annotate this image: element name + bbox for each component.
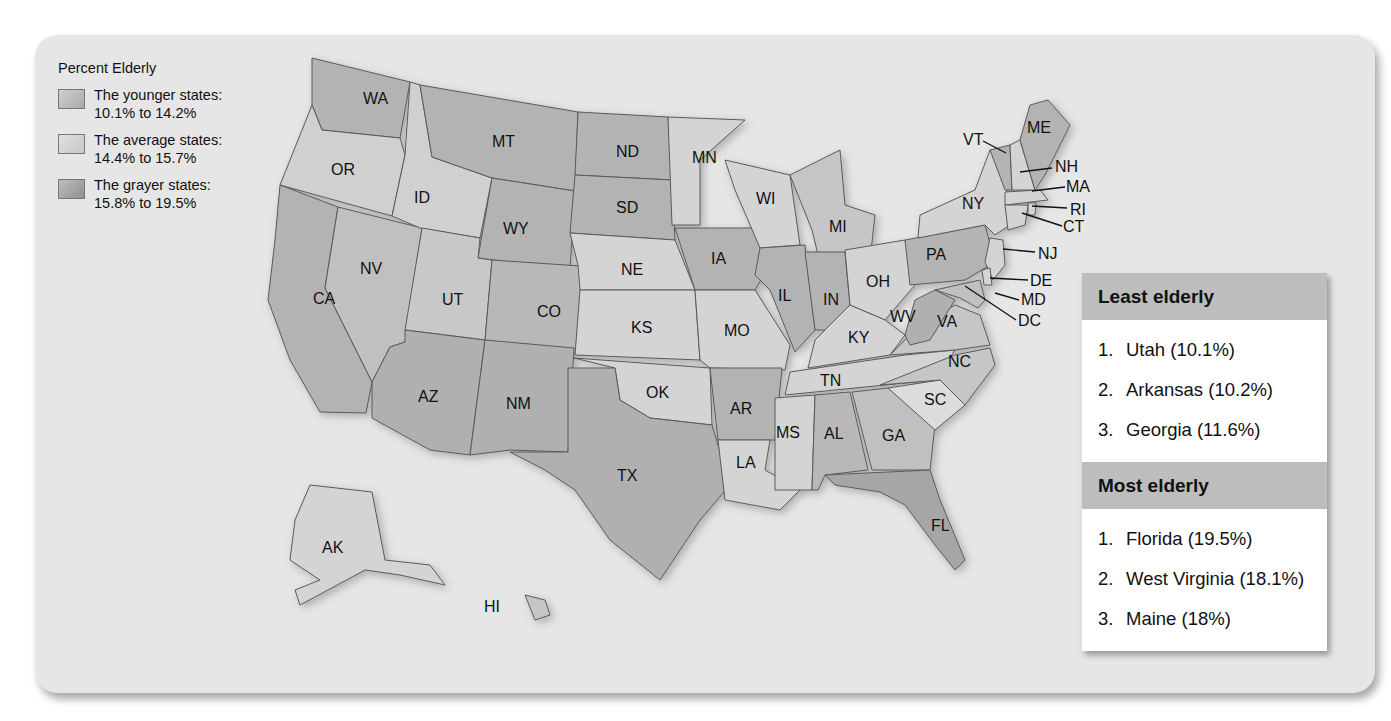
svg-text:WA: WA <box>363 90 389 107</box>
svg-text:CT: CT <box>1063 218 1085 235</box>
svg-text:NJ: NJ <box>1038 245 1058 262</box>
svg-text:ID: ID <box>414 189 430 206</box>
svg-text:KS: KS <box>631 319 652 336</box>
svg-text:OR: OR <box>331 161 355 178</box>
svg-text:FL: FL <box>931 517 950 534</box>
svg-text:ME: ME <box>1027 119 1051 136</box>
svg-text:MD: MD <box>1021 291 1046 308</box>
svg-text:SC: SC <box>924 391 946 408</box>
svg-text:MA: MA <box>1066 178 1090 195</box>
least-elderly-header: Least elderly <box>1082 273 1327 320</box>
list-item: 2.Arkansas (10.2%) <box>1098 370 1327 410</box>
svg-text:CA: CA <box>313 290 336 307</box>
least-elderly-list: 1.Utah (10.1%) 2.Arkansas (10.2%) 3.Geor… <box>1082 320 1327 462</box>
svg-text:WY: WY <box>503 220 529 237</box>
svg-text:NC: NC <box>948 353 971 370</box>
svg-text:NV: NV <box>360 260 383 277</box>
svg-text:WV: WV <box>890 308 916 325</box>
state-DE[interactable] <box>982 268 992 285</box>
state-MA[interactable] <box>1005 190 1048 205</box>
svg-text:WI: WI <box>756 190 776 207</box>
state-MS[interactable] <box>775 395 815 490</box>
svg-text:AL: AL <box>824 425 844 442</box>
svg-text:MI: MI <box>829 218 847 235</box>
svg-text:NH: NH <box>1055 158 1078 175</box>
svg-text:OH: OH <box>866 273 890 290</box>
svg-text:UT: UT <box>442 291 464 308</box>
state-RI[interactable] <box>1028 203 1036 215</box>
most-elderly-list: 1.Florida (19.5%) 2.West Virginia (18.1%… <box>1082 509 1327 651</box>
list-item: 3.Georgia (11.6%) <box>1098 410 1327 450</box>
svg-text:MT: MT <box>492 133 515 150</box>
svg-text:SD: SD <box>616 199 638 216</box>
svg-text:DC: DC <box>1018 312 1041 329</box>
svg-text:MO: MO <box>724 322 750 339</box>
svg-text:MN: MN <box>692 149 717 166</box>
rankings-box: Least elderly 1.Utah (10.1%) 2.Arkansas … <box>1082 273 1327 651</box>
svg-text:AZ: AZ <box>418 388 439 405</box>
svg-text:GA: GA <box>882 427 905 444</box>
state-WA[interactable] <box>312 58 410 138</box>
svg-text:VA: VA <box>937 313 957 330</box>
svg-text:RI: RI <box>1070 201 1086 218</box>
most-elderly-header: Most elderly <box>1082 462 1327 509</box>
svg-text:KY: KY <box>848 329 870 346</box>
svg-text:OK: OK <box>646 384 669 401</box>
svg-text:IL: IL <box>778 287 791 304</box>
svg-text:TN: TN <box>820 372 841 389</box>
list-item: 1.Utah (10.1%) <box>1098 330 1327 370</box>
svg-text:DE: DE <box>1030 272 1052 289</box>
svg-text:HI: HI <box>484 598 500 615</box>
svg-text:PA: PA <box>926 246 946 263</box>
svg-text:CO: CO <box>537 303 561 320</box>
list-item: 2.West Virginia (18.1%) <box>1098 559 1327 599</box>
svg-text:NM: NM <box>506 395 531 412</box>
list-item: 1.Florida (19.5%) <box>1098 519 1327 559</box>
state-CT[interactable] <box>1005 205 1028 230</box>
svg-text:VT: VT <box>963 131 984 148</box>
svg-text:ND: ND <box>616 143 639 160</box>
svg-text:TX: TX <box>617 467 638 484</box>
state-HI[interactable] <box>525 595 550 620</box>
state-AK[interactable] <box>290 485 445 605</box>
svg-text:IN: IN <box>823 291 839 308</box>
svg-text:IA: IA <box>711 250 726 267</box>
svg-text:AR: AR <box>730 400 752 417</box>
svg-text:MS: MS <box>776 424 800 441</box>
svg-text:LA: LA <box>736 454 756 471</box>
svg-text:NE: NE <box>621 261 643 278</box>
svg-text:AK: AK <box>322 539 344 556</box>
svg-text:NY: NY <box>962 195 985 212</box>
list-item: 3.Maine (18%) <box>1098 599 1327 639</box>
